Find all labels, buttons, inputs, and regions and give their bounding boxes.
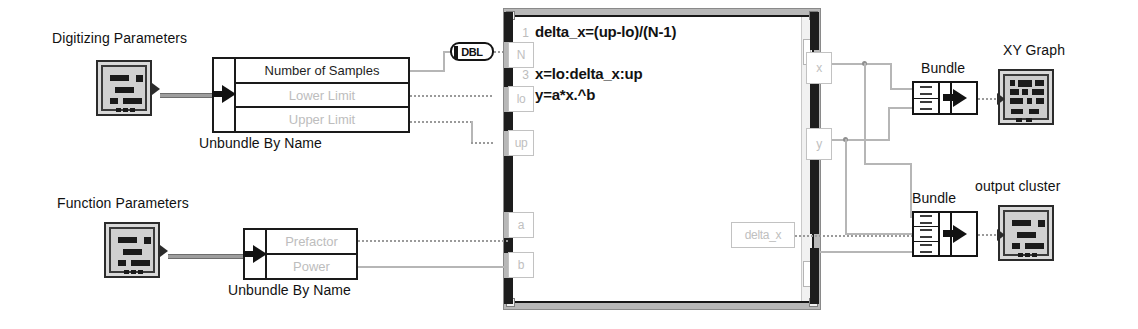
formula-input-terminal-n[interactable]: N [508, 42, 534, 68]
unbundle-rows-2: Prefactor Power [267, 230, 356, 278]
graph-glyph-4 [1010, 89, 1019, 95]
formula-output-terminal-y[interactable]: y [806, 128, 832, 160]
formula-input-terminal-b[interactable]: b [508, 252, 534, 278]
xy-graph-label: XY Graph [1003, 42, 1065, 58]
unbundle-by-name-1-label: Unbundle By Name [199, 135, 322, 151]
wire-delta-x-lower [820, 251, 912, 253]
unbundle-2-arrow-head [253, 245, 267, 263]
formula-node-screen[interactable]: 1 delta_x=(up-lo)/(N-1) 2 3 x=lo:delta_x… [510, 15, 814, 303]
bundle-2-input-delta-x[interactable] [914, 242, 938, 255]
unbundle-row-upper-limit[interactable]: Upper Limit [236, 108, 408, 131]
dbl-node-label: DBL [461, 46, 482, 58]
cluster-glyph-bar-2 [115, 87, 134, 93]
wire-upper-limit-h1 [410, 121, 472, 123]
output-cluster-glyph-foot-3 [1032, 253, 1037, 257]
wire-upper-limit-h2 [471, 142, 493, 144]
bundle-1-input-x[interactable] [914, 83, 938, 99]
bundle-cell-mark [920, 101, 932, 110]
output-cluster-indicator-icon[interactable] [998, 205, 1054, 261]
wire-lower-limit [410, 95, 492, 97]
output-cluster-glyph-foot-2 [1025, 253, 1030, 257]
wire-power-to-b [358, 266, 508, 268]
cluster-glyph-bar-1 [110, 75, 129, 81]
terminal-slot-delta-top [810, 214, 819, 234]
wire-digitizing-to-unbundle [160, 93, 213, 98]
formula-output-terminal-delta-x[interactable]: delta_x [731, 222, 795, 248]
wire-y-to-bundle1 [888, 107, 912, 109]
function-cluster-glyph-foot-1 [124, 270, 129, 274]
xy-graph-indicator-icon[interactable] [998, 69, 1054, 125]
output-cluster-input-terminal-arrow [997, 229, 1005, 241]
formula-output-terminal-x-label: x [816, 61, 822, 75]
unbundle-by-name-2-label: Unbundle By Name [228, 282, 351, 298]
function-cluster-glyph-square-1 [144, 237, 151, 244]
function-cluster-glyph-square-2 [118, 260, 126, 266]
cluster-output-terminal-arrow [152, 83, 160, 95]
output-cluster-label: output cluster [975, 178, 1060, 194]
output-cluster-glyph-bar-3 [1025, 243, 1044, 249]
formula-line-number-1: 1 [516, 26, 529, 40]
bundle-2-input-x[interactable] [914, 213, 938, 227]
graph-glyph-9 [1036, 98, 1044, 104]
cluster-icon-inner [101, 65, 147, 111]
formula-input-terminal-lo-label: lo [517, 92, 526, 106]
bundle-node-2[interactable] [912, 211, 978, 257]
unbundle-row-prefactor[interactable]: Prefactor [267, 230, 356, 255]
function-cluster-output-terminal-arrow [160, 245, 168, 257]
unbundle-row-lower-limit[interactable]: Lower Limit [236, 84, 408, 109]
digitizing-parameters-label: Digitizing Parameters [52, 30, 187, 46]
bundle-1-label: Bundle [921, 60, 965, 76]
digitizing-parameters-cluster-icon[interactable] [96, 60, 152, 116]
graph-glyph-11 [1029, 109, 1039, 114]
bundle-cell-mark [920, 86, 932, 95]
terminal-slot-right-top [810, 12, 819, 50]
unbundle-by-name-node-1[interactable]: Number of Samples Lower Limit Upper Limi… [212, 57, 410, 133]
terminal-slot-y-delta [810, 160, 819, 214]
formula-code-area[interactable]: 1 delta_x=(up-lo)/(N-1) 2 3 x=lo:delta_x… [512, 17, 812, 107]
dbl-conversion-node[interactable]: DBL [450, 42, 494, 61]
wire-x-long-down [864, 63, 866, 165]
terminal-slot-lo-up [504, 112, 513, 131]
formula-input-terminal-up[interactable]: up [508, 130, 534, 156]
bundle-1-arrow-head [953, 89, 967, 107]
unbundle-row-number-of-samples[interactable]: Number of Samples [236, 59, 408, 84]
formula-line-code-4: y=a*x.^b [535, 86, 595, 103]
function-cluster-glyph-bar-1 [118, 237, 137, 243]
wire-prefactor-to-a [358, 240, 508, 242]
formula-input-terminal-lo[interactable]: lo [508, 86, 534, 112]
bundle-1-inputs [914, 83, 940, 113]
cluster-glyph-square-2 [110, 98, 118, 104]
bundle-cell-mark [920, 215, 932, 224]
terminal-slot-left-bottom [504, 278, 513, 304]
cluster-glyph-foot-2 [123, 108, 128, 112]
unbundle-row-power[interactable]: Power [267, 255, 356, 278]
cluster-glyph-square-1 [136, 75, 143, 82]
formula-output-terminal-x[interactable]: x [806, 52, 832, 84]
formula-input-terminal-n-label: N [517, 48, 525, 62]
wire-delta-x-to-bundle2 [795, 235, 913, 237]
bundle-1-input-y[interactable] [914, 99, 938, 114]
graph-glyph-7 [1010, 98, 1023, 104]
block-diagram-canvas: Digitizing Parameters Number of Samples … [0, 0, 1138, 329]
bundle-cell-mark [920, 229, 932, 238]
output-cluster-glyph-square-1 [1038, 220, 1045, 227]
formula-line-2: 2 [516, 44, 812, 65]
function-parameters-cluster-icon[interactable] [104, 222, 160, 278]
bundle-2-arrow-cell [952, 213, 976, 255]
terminal-slot-x-y [810, 84, 819, 130]
wire-upper-limit-v [471, 121, 473, 143]
bundle-2-input-y[interactable] [914, 227, 938, 241]
formula-line-number-3: 3 [516, 68, 529, 82]
mathscript-formula-node[interactable]: 1 delta_x=(up-lo)/(N-1) 2 3 x=lo:delta_x… [503, 8, 821, 310]
bundle-node-1[interactable] [912, 81, 978, 115]
output-cluster-glyph-bar-1 [1012, 220, 1031, 226]
unbundle-1-arrow-tail [212, 91, 222, 97]
cluster-glyph-foot-3 [130, 108, 135, 112]
formula-input-terminal-a[interactable]: a [508, 212, 534, 238]
formula-output-terminal-y-label: y [816, 137, 822, 151]
wire-function-to-unbundle [168, 254, 243, 259]
terminal-slot-left-top [504, 12, 513, 42]
output-cluster-glyph-bar-2 [1017, 232, 1036, 238]
formula-input-terminal-up-label: up [515, 136, 528, 150]
wire-x-to-bundle1 [890, 88, 912, 90]
